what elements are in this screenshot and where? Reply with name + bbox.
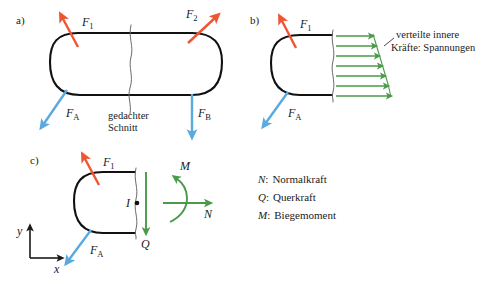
panel-a-force-fb-label: FB	[197, 106, 211, 122]
panel-c-force-f1-label: F1	[102, 155, 115, 171]
panel-c-label: c)	[30, 154, 39, 167]
panel-b: b) F1 FA verteilte innere Kräfte: Spannu…	[250, 14, 476, 124]
panel-c-point-marker	[135, 201, 140, 206]
panel-b-stress-label-line1: verteilte innere	[396, 29, 460, 40]
panel-c-resultant-n-label: N	[203, 207, 213, 221]
panel-c-axes: y x	[16, 224, 60, 276]
panel-a-label: a)	[16, 14, 25, 27]
panel-a: a) F1 F2 FA FB gedachter Schnitt	[16, 7, 222, 134]
panel-c-resultant-m-label: M	[179, 159, 191, 173]
panel-a-force-f2-label: F2	[185, 7, 198, 23]
panel-c-resultant-q-label: Q	[141, 237, 150, 251]
panel-a-force-fa-arrow	[43, 90, 67, 125]
legend-entry-n: N:Normalkraft	[257, 173, 327, 185]
x-axis-label: x	[53, 262, 60, 276]
panel-b-force-fa-label: FA	[287, 106, 302, 122]
panel-c-force-fa-arrow	[68, 230, 91, 261]
panel-b-label: b)	[250, 14, 260, 27]
panel-a-force-fa-label: FA	[65, 106, 80, 122]
legend-entry-q: Q:Querkraft	[258, 191, 316, 203]
panel-a-cut-label-line2: Schnitt	[108, 122, 138, 133]
panel-b-stress-label-line2: Kräfte: Spannungen	[391, 42, 476, 53]
legend: N:Normalkraft Q:Querkraft M:Biegemoment	[257, 173, 336, 221]
panel-b-force-fa-arrow	[265, 92, 288, 124]
panel-b-stress-arrows	[336, 34, 391, 97]
panel-a-cut-label-line1: gedachter	[108, 110, 149, 121]
y-axis-label: y	[16, 224, 23, 238]
mechanics-figure: a) F1 F2 FA FB gedachter Schnitt b) F1	[0, 0, 487, 286]
panel-c-resultant-m-arrow	[170, 178, 187, 222]
panel-c-force-fa-label: FA	[89, 243, 104, 259]
panel-c: c) F1 FA I Q N M y x	[16, 154, 213, 276]
panel-b-cut-line	[332, 30, 334, 102]
legend-entry-m: M:Biegemoment	[257, 209, 336, 221]
panel-b-body-outline	[271, 35, 332, 95]
panel-b-force-f1-label: F1	[299, 17, 312, 33]
panel-a-force-f1-label: F1	[81, 15, 94, 31]
